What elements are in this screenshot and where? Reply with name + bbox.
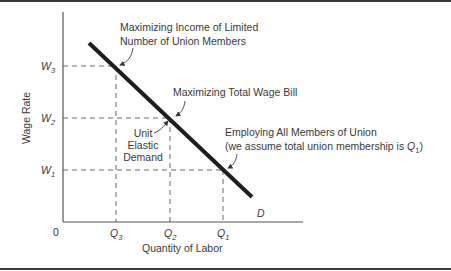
- annotation-income-line1: Maximizing Income of Limited: [120, 21, 258, 33]
- arrow-income: [120, 48, 133, 65]
- arrow-employing: [228, 154, 237, 168]
- arrow-wage-bill: [176, 101, 185, 116]
- annotation-unit-elastic-line3: Demand: [123, 151, 163, 163]
- x-tick-q1: Q1: [217, 227, 229, 242]
- arrow-unit-elastic: [154, 121, 168, 133]
- x-tick-q3: Q3: [110, 227, 123, 242]
- y-tick-w2: W2: [41, 112, 56, 127]
- annotation-wage-bill: Maximizing Total Wage Bill: [173, 86, 297, 98]
- y-tick-w3: W3: [41, 60, 56, 75]
- demand-curve: [89, 43, 252, 197]
- annotation-income-line2: Number of Union Members: [120, 35, 246, 47]
- annotation-unit-elastic-line2: Elastic: [128, 139, 159, 151]
- y-axis-title: Wage Rate: [20, 92, 32, 144]
- annotation-unit-elastic-line1: Unit: [134, 127, 153, 139]
- diagram-frame: D W3 W2 W1 0 Q3 Q2 Q1 Quantity of Labor …: [0, 0, 451, 271]
- y-tick-w1: W1: [41, 164, 55, 179]
- demand-curve-label: D: [257, 207, 265, 219]
- origin-label: 0: [53, 226, 59, 238]
- x-axis-title: Quantity of Labor: [142, 242, 223, 254]
- annotation-employing-line1: Employing All Members of Union: [225, 126, 377, 138]
- labor-demand-diagram: D W3 W2 W1 0 Q3 Q2 Q1 Quantity of Labor …: [0, 0, 451, 271]
- x-tick-q2: Q2: [164, 227, 177, 242]
- annotation-employing-line2: (we assume total union membership is Q1): [225, 140, 423, 155]
